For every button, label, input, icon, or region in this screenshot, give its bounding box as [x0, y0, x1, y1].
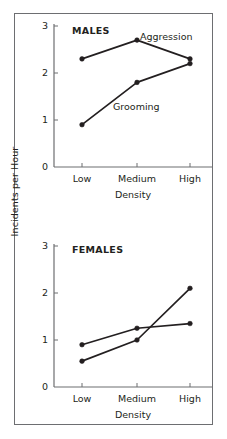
figure-container: Incidents per Hour MALES 0 1 2 3 Low Med… — [0, 0, 227, 439]
y-tick-females-1: 1 — [32, 334, 48, 345]
x-tick-females-low: Low — [52, 393, 112, 404]
y-tick-females-0: 0 — [32, 381, 48, 392]
x-tick-males-medium: Medium — [107, 173, 167, 184]
plot-area-females — [0, 220, 227, 439]
x-tick-females-medium: Medium — [107, 393, 167, 404]
panel-females: FEMALES 0 1 2 3 Low Medium High Density … — [0, 220, 227, 439]
x-tick-females-high: High — [160, 393, 220, 404]
y-tick-males-2: 2 — [32, 67, 48, 78]
y-tick-females-2: 2 — [32, 287, 48, 298]
panel-males: MALES 0 1 2 3 Low Medium High Density Ag… — [0, 0, 227, 219]
series-label-males-grooming: Grooming — [113, 101, 160, 112]
y-tick-males-0: 0 — [32, 161, 48, 172]
x-axis-title-females: Density — [53, 409, 213, 420]
y-tick-males-1: 1 — [32, 114, 48, 125]
series-label-males-aggression: Aggression — [140, 31, 192, 42]
x-tick-males-high: High — [160, 173, 220, 184]
x-tick-males-low: Low — [52, 173, 112, 184]
y-tick-males-3: 3 — [32, 20, 48, 31]
x-axis-title-males: Density — [53, 189, 213, 200]
y-tick-females-3: 3 — [32, 240, 48, 251]
